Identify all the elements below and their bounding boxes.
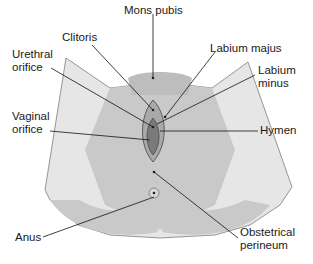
label-mons-pubis: Mons pubis: [124, 4, 183, 17]
mons-region: [128, 72, 192, 95]
label-hymen: Hymen: [260, 124, 296, 137]
label-urethral-orifice: Urethral orifice: [12, 48, 53, 74]
label-labium-majus: Labium majus: [210, 42, 282, 55]
label-clitoris: Clitoris: [62, 31, 97, 44]
label-anus: Anus: [15, 231, 41, 244]
label-vaginal-orifice: Vaginal orifice: [12, 110, 50, 136]
label-labium-minus: Labium minus: [258, 64, 296, 90]
label-obstetrical-perineum: Obstetrical perineum: [240, 226, 295, 252]
